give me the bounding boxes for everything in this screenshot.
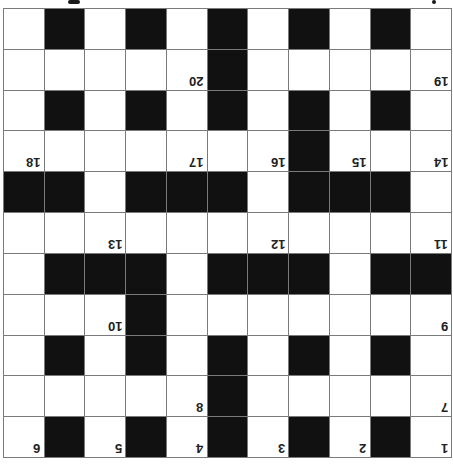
grid-cell[interactable]: 16 bbox=[248, 131, 288, 171]
grid-cell[interactable] bbox=[411, 91, 451, 131]
grid-cell[interactable] bbox=[126, 213, 166, 253]
grid-cell[interactable] bbox=[371, 376, 411, 416]
grid-cell[interactable]: 1 bbox=[411, 417, 451, 457]
grid-cell[interactable]: 8 bbox=[167, 376, 207, 416]
clue-number: 15 bbox=[352, 156, 366, 169]
grid-cell[interactable] bbox=[371, 213, 411, 253]
grid-cell[interactable] bbox=[45, 213, 85, 253]
grid-cell[interactable] bbox=[85, 376, 125, 416]
grid-cell[interactable] bbox=[45, 50, 85, 90]
grid-cell[interactable] bbox=[330, 376, 370, 416]
grid-cell[interactable] bbox=[330, 295, 370, 335]
cropped-glyph-fragment-left bbox=[68, 0, 80, 4]
grid-cell[interactable] bbox=[126, 131, 166, 171]
grid-cell[interactable]: 17 bbox=[167, 131, 207, 171]
grid-cell[interactable]: 20 bbox=[167, 50, 207, 90]
clue-number: 10 bbox=[108, 320, 122, 333]
black-square bbox=[371, 254, 411, 294]
black-square bbox=[45, 336, 85, 376]
grid-cell[interactable] bbox=[330, 254, 370, 294]
grid-cell[interactable] bbox=[85, 9, 125, 49]
grid-cell[interactable] bbox=[126, 50, 166, 90]
grid-cell[interactable] bbox=[45, 131, 85, 171]
black-square bbox=[208, 9, 248, 49]
grid-cell[interactable] bbox=[330, 336, 370, 376]
grid-cell[interactable] bbox=[248, 91, 288, 131]
grid-cell[interactable] bbox=[411, 9, 451, 49]
grid-cell[interactable] bbox=[411, 336, 451, 376]
grid-cell[interactable] bbox=[289, 213, 329, 253]
grid-cell[interactable] bbox=[126, 376, 166, 416]
grid-cell[interactable] bbox=[248, 376, 288, 416]
grid-cell[interactable] bbox=[248, 336, 288, 376]
grid-cell[interactable] bbox=[248, 172, 288, 212]
grid-cell[interactable] bbox=[289, 376, 329, 416]
grid-cell[interactable]: 18 bbox=[4, 131, 44, 171]
black-square bbox=[289, 172, 329, 212]
grid-cell[interactable]: 2 bbox=[330, 417, 370, 457]
grid-cell[interactable] bbox=[208, 213, 248, 253]
black-square bbox=[45, 417, 85, 457]
clue-number: 20 bbox=[189, 75, 203, 88]
black-square bbox=[208, 254, 248, 294]
clue-number: 8 bbox=[196, 401, 203, 414]
black-square bbox=[45, 172, 85, 212]
clue-number: 13 bbox=[108, 238, 122, 251]
grid-cell[interactable] bbox=[4, 91, 44, 131]
grid-cell[interactable] bbox=[85, 50, 125, 90]
grid-cell[interactable] bbox=[330, 50, 370, 90]
grid-cell[interactable] bbox=[4, 254, 44, 294]
clue-number: 17 bbox=[189, 156, 203, 169]
black-square bbox=[289, 417, 329, 457]
grid-cell[interactable] bbox=[167, 9, 207, 49]
grid-cell[interactable]: 7 bbox=[411, 376, 451, 416]
grid-cell[interactable] bbox=[248, 295, 288, 335]
grid-cell[interactable]: 15 bbox=[330, 131, 370, 171]
grid-cell[interactable] bbox=[411, 172, 451, 212]
grid-cell[interactable] bbox=[248, 9, 288, 49]
grid-cell[interactable]: 14 bbox=[411, 131, 451, 171]
grid-cell[interactable] bbox=[289, 50, 329, 90]
grid-cell[interactable] bbox=[248, 50, 288, 90]
grid-cell[interactable] bbox=[45, 376, 85, 416]
grid-cell[interactable]: 3 bbox=[248, 417, 288, 457]
grid-cell[interactable] bbox=[330, 9, 370, 49]
grid-cell[interactable] bbox=[85, 131, 125, 171]
grid-cell[interactable]: 6 bbox=[4, 417, 44, 457]
black-square bbox=[167, 172, 207, 212]
grid-cell[interactable] bbox=[4, 213, 44, 253]
grid-cell[interactable] bbox=[208, 131, 248, 171]
grid-cell[interactable]: 9 bbox=[411, 295, 451, 335]
grid-cell[interactable] bbox=[371, 50, 411, 90]
grid-cell[interactable] bbox=[330, 91, 370, 131]
grid-cell[interactable] bbox=[371, 131, 411, 171]
grid-cell[interactable] bbox=[371, 295, 411, 335]
grid-cell[interactable]: 5 bbox=[85, 417, 125, 457]
grid-cell[interactable]: 10 bbox=[85, 295, 125, 335]
grid-cell[interactable] bbox=[289, 295, 329, 335]
grid-cell[interactable] bbox=[4, 376, 44, 416]
grid-cell[interactable] bbox=[167, 213, 207, 253]
grid-cell[interactable]: 4 bbox=[167, 417, 207, 457]
grid-cell[interactable] bbox=[167, 91, 207, 131]
grid-cell[interactable]: 11 bbox=[411, 213, 451, 253]
grid-cell[interactable] bbox=[208, 295, 248, 335]
grid-cell[interactable] bbox=[85, 336, 125, 376]
black-square bbox=[126, 91, 166, 131]
grid-cell[interactable] bbox=[4, 9, 44, 49]
grid-cell[interactable] bbox=[85, 91, 125, 131]
grid-cell[interactable] bbox=[167, 336, 207, 376]
grid-cell[interactable] bbox=[45, 295, 85, 335]
grid-cell[interactable] bbox=[85, 172, 125, 212]
grid-cell[interactable]: 12 bbox=[248, 213, 288, 253]
grid-cell[interactable]: 19 bbox=[411, 50, 451, 90]
grid-cell[interactable] bbox=[4, 50, 44, 90]
black-square bbox=[248, 254, 288, 294]
black-square bbox=[4, 172, 44, 212]
grid-cell[interactable] bbox=[4, 336, 44, 376]
grid-cell[interactable] bbox=[167, 295, 207, 335]
grid-cell[interactable] bbox=[330, 213, 370, 253]
grid-cell[interactable]: 13 bbox=[85, 213, 125, 253]
grid-cell[interactable] bbox=[167, 254, 207, 294]
grid-cell[interactable] bbox=[4, 295, 44, 335]
